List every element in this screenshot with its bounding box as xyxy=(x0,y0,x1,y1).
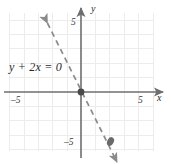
x-axis-label: x xyxy=(157,93,161,103)
y-axis-label: y xyxy=(91,4,95,14)
graph-figure: y x 5 –5 5 –5 y + 2x = 0 xyxy=(0,0,171,164)
lower-point-marker xyxy=(106,136,116,147)
origin-point-marker xyxy=(78,89,85,96)
y-tick-label-negative-5: –5 xyxy=(64,138,74,148)
equation-annotation: y + 2x = 0 xyxy=(9,61,62,73)
graph-canvas xyxy=(0,0,171,164)
y-tick-label-positive-5: 5 xyxy=(71,18,76,28)
x-tick-label-positive-5: 5 xyxy=(138,96,143,106)
x-tick-label-negative-5: –5 xyxy=(11,96,21,106)
